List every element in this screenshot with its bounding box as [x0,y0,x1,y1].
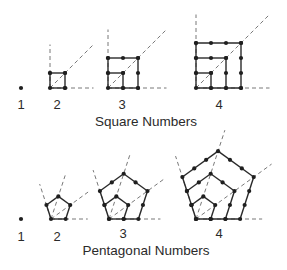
dot [209,217,213,221]
dot [239,41,243,45]
dot [197,180,201,184]
dot [114,194,118,198]
dot [63,71,67,75]
dot [240,166,244,170]
dot [106,86,110,90]
dot [107,217,111,221]
edge-line [240,177,254,219]
dot [48,86,52,90]
dot [194,41,198,45]
dot [110,180,114,184]
dot [204,158,208,162]
pentagonal-numbers-figures [19,130,272,221]
figurate-numbers-diagram [0,0,287,270]
dot [239,86,243,90]
edge-line [66,205,71,219]
dot [44,203,48,207]
dot [209,56,213,60]
dot [224,86,228,90]
dot [145,189,149,193]
dot [224,71,228,75]
dot [68,203,72,207]
square-figure-2 [48,45,94,91]
dot [239,56,243,60]
dot [239,71,243,75]
dot [126,203,130,207]
dot [180,175,184,179]
dot [122,172,126,176]
dot [19,86,23,90]
edge-line [116,196,128,205]
dot [228,203,232,207]
dot [213,203,217,207]
dot [121,56,125,60]
dot [194,71,198,75]
pentagon-figure-2 [40,175,88,221]
dot [238,217,242,221]
dot [56,194,60,198]
edge-line [218,151,254,177]
dot [136,56,140,60]
dot [63,86,67,90]
square-figure-3 [106,30,167,91]
dot [122,217,126,221]
square-numbers-caption: Square Numbers [95,115,197,129]
dot [106,56,110,60]
dot [136,217,140,221]
dot [232,189,236,193]
dot [209,71,213,75]
dot [194,56,198,60]
square-label-2: 2 [53,98,60,111]
dot [19,217,23,221]
pentagon-label-2: 2 [53,230,60,243]
dot [48,71,52,75]
guide-dashed-line [50,45,94,89]
edge-line [124,205,129,219]
edge-line [58,196,70,205]
dot [192,166,196,170]
dot [141,203,145,207]
dot [201,194,205,198]
dot [194,86,198,90]
dot [224,56,228,60]
edge-line [182,177,196,219]
square-figure-1 [19,86,23,90]
dot [209,86,213,90]
square-label-4: 4 [215,98,222,111]
dot [133,180,137,184]
dot [189,203,193,207]
dot [228,158,232,162]
dot [252,175,256,179]
pentagon-label-1: 1 [17,230,24,243]
dot [64,217,68,221]
square-numbers-figures [19,15,270,91]
dot [102,203,106,207]
square-label-3: 3 [118,98,125,111]
pentagon-label-3: 3 [119,227,126,240]
pentagon-figure-4 [176,130,272,221]
edge-line [46,196,58,205]
dot [247,189,251,193]
dot [98,189,102,193]
dot [243,203,247,207]
dot [209,41,213,45]
pentagon-figure-1 [19,217,23,221]
edge-line [191,196,203,205]
dot [121,71,125,75]
dot [121,86,125,90]
dot [216,149,220,153]
edge-line [104,196,116,205]
edge-line [203,196,215,205]
dot [224,41,228,45]
dot [209,172,213,176]
dot [136,86,140,90]
pentagon-label-4: 4 [215,227,222,240]
edge-line [46,205,51,219]
guide-dashed-line [196,15,270,89]
dot [106,71,110,75]
dot [185,189,189,193]
dot [194,217,198,221]
dot [136,71,140,75]
dot [220,180,224,184]
pentagonal-numbers-caption: Pentagonal Numbers [83,244,210,258]
